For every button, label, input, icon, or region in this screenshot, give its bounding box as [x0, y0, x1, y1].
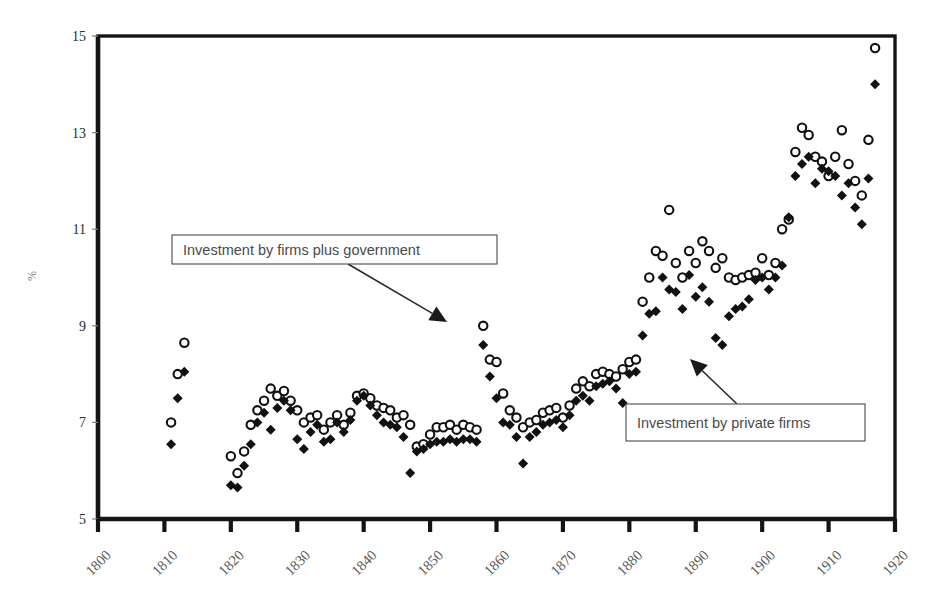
- y-tick-label: 7: [79, 415, 86, 430]
- data-point-firms-plus-government: [685, 247, 693, 255]
- data-point-firms-plus-government: [399, 411, 407, 419]
- data-point-firms-plus-government: [227, 452, 235, 460]
- data-point-private-firms: [857, 219, 867, 229]
- data-point-private-firms: [744, 294, 754, 304]
- data-point-firms-plus-government: [386, 406, 394, 414]
- x-tick-label: 1900: [746, 547, 778, 579]
- x-tick-label: 1830: [282, 547, 314, 579]
- x-tick-label: 1910: [813, 547, 845, 579]
- data-point-firms-plus-government: [645, 273, 653, 281]
- data-point-firms-plus-government: [313, 411, 321, 419]
- x-tick-label: 1920: [879, 547, 911, 579]
- scatter-plot-canvas: 579111315 180018101820183018401850186018…: [0, 0, 933, 616]
- data-point-firms-plus-government: [658, 252, 666, 260]
- data-point-firms-plus-government: [512, 413, 520, 421]
- annotation-arrowhead: [428, 307, 447, 322]
- data-point-private-firms: [306, 427, 316, 437]
- data-point-firms-plus-government: [864, 136, 872, 144]
- data-point-firms-plus-government: [565, 401, 573, 409]
- data-point-private-firms: [292, 434, 302, 444]
- data-point-firms-plus-government: [612, 372, 620, 380]
- data-point-private-firms: [724, 311, 734, 321]
- data-point-private-firms: [810, 178, 820, 188]
- data-point-firms-plus-government: [778, 225, 786, 233]
- data-point-firms-plus-government: [280, 387, 288, 395]
- data-point-private-firms: [173, 393, 183, 403]
- data-point-firms-plus-government: [618, 365, 626, 373]
- data-point-private-firms: [850, 202, 860, 212]
- data-point-private-firms: [837, 190, 847, 200]
- x-tick-label: 1870: [547, 547, 579, 579]
- chart-figure: 579111315 180018101820183018401850186018…: [0, 0, 933, 616]
- data-point-firms-plus-government: [705, 247, 713, 255]
- data-point-private-firms: [717, 340, 727, 350]
- y-axis-title: %: [25, 271, 39, 281]
- data-point-firms-plus-government: [472, 425, 480, 433]
- data-point-private-firms: [870, 79, 880, 89]
- data-point-firms-plus-government: [858, 191, 866, 199]
- data-point-private-firms: [790, 171, 800, 181]
- data-point-firms-plus-government: [638, 297, 646, 305]
- data-point-private-firms: [764, 285, 774, 295]
- x-tick-label: 1810: [149, 547, 181, 579]
- data-point-private-firms: [266, 425, 276, 435]
- x-tick-label: 1840: [348, 547, 380, 579]
- data-point-firms-plus-government: [844, 160, 852, 168]
- data-point-firms-plus-government: [180, 339, 188, 347]
- data-point-private-firms: [691, 292, 701, 302]
- data-point-private-firms: [704, 297, 714, 307]
- data-point-firms-plus-government: [572, 384, 580, 392]
- y-tick-label: 13: [72, 126, 86, 141]
- x-tick-label: 1880: [614, 547, 646, 579]
- data-point-firms-plus-government: [552, 404, 560, 412]
- data-point-firms-plus-government: [838, 126, 846, 134]
- data-point-private-firms: [272, 403, 282, 413]
- data-point-firms-plus-government: [698, 237, 706, 245]
- data-point-firms-plus-government: [871, 44, 879, 52]
- annotation-leader-line: [348, 264, 432, 313]
- data-point-firms-plus-government: [406, 421, 414, 429]
- y-tick-label: 9: [79, 319, 86, 334]
- annotation-leader-line: [702, 371, 737, 404]
- data-point-firms-plus-government: [499, 389, 507, 397]
- x-axis-ticks: 1800181018201830184018501860187018801890…: [82, 519, 911, 579]
- data-point-firms-plus-government: [758, 254, 766, 262]
- y-tick-label: 11: [73, 222, 86, 237]
- data-point-private-firms: [677, 304, 687, 314]
- data-point-private-firms: [658, 273, 668, 283]
- data-point-private-firms: [863, 173, 873, 183]
- x-tick-label: 1890: [680, 547, 712, 579]
- x-tick-label: 1850: [414, 547, 446, 579]
- data-point-firms-plus-government: [804, 131, 812, 139]
- data-point-private-firms: [511, 432, 521, 442]
- annotation-label: Investment by private firms: [637, 415, 810, 431]
- annotation-label: Investment by firms plus government: [183, 242, 420, 258]
- data-point-private-firms: [797, 159, 807, 169]
- data-point-firms-plus-government: [692, 259, 700, 267]
- data-point-private-firms: [711, 333, 721, 343]
- data-point-firms-plus-government: [791, 148, 799, 156]
- data-point-private-firms: [558, 422, 568, 432]
- data-point-firms-plus-government: [798, 124, 806, 132]
- data-point-firms-plus-government: [831, 153, 839, 161]
- data-point-private-firms: [399, 432, 409, 442]
- y-axis-ticks: 579111315: [72, 29, 98, 527]
- data-point-firms-plus-government: [240, 447, 248, 455]
- data-point-firms-plus-government: [167, 418, 175, 426]
- data-point-private-firms: [611, 384, 621, 394]
- y-tick-label: 15: [72, 29, 86, 44]
- data-point-firms-plus-government: [532, 416, 540, 424]
- data-point-firms-plus-government: [320, 425, 328, 433]
- data-point-firms-plus-government: [260, 396, 268, 404]
- data-point-firms-plus-government: [672, 259, 680, 267]
- data-point-firms-plus-government: [506, 406, 514, 414]
- data-point-private-firms: [485, 372, 495, 382]
- data-point-private-firms: [166, 439, 176, 449]
- data-point-firms-plus-government: [632, 355, 640, 363]
- data-point-firms-plus-government: [233, 469, 241, 477]
- data-point-firms-plus-government: [711, 264, 719, 272]
- data-point-firms-plus-government: [665, 206, 673, 214]
- data-point-firms-plus-government: [492, 358, 500, 366]
- data-point-private-firms: [518, 458, 528, 468]
- y-axis-title-text: %: [25, 271, 39, 281]
